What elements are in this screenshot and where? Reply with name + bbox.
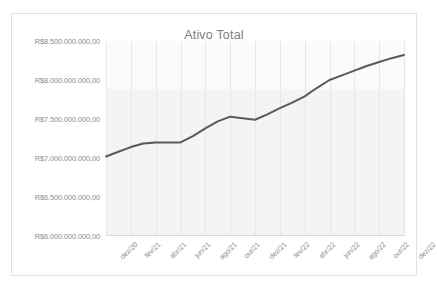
y-axis-tick-labels: R$6.000.000.000,00R$6.500.000.000,00R$7.… [12, 41, 100, 236]
x-axis-tick-label: fev/21 [142, 240, 162, 260]
x-axis-tick-label: dez/20 [118, 240, 139, 261]
gridline [404, 41, 405, 236]
y-axis-tick-label: R$7.500.000.000,00 [35, 115, 100, 124]
y-axis-tick-label: R$8.000.000.000,00 [35, 76, 100, 85]
x-axis-tick-label: jun/21 [192, 240, 212, 260]
x-axis-tick-label: out/21 [242, 240, 262, 260]
x-axis-tick-label: abr/21 [167, 240, 187, 260]
x-axis-tick-label: fev/22 [291, 240, 311, 260]
x-axis-tick-label: abr/22 [316, 240, 336, 260]
y-axis-tick-label: R$6.000.000.000,00 [35, 232, 100, 241]
chart-container: Ativo Total R$6.000.000.000,00R$6.500.00… [11, 13, 417, 276]
x-axis-tick-label: dez/22 [416, 240, 437, 261]
y-axis-tick-label: R$7.000.000.000,00 [35, 154, 100, 163]
plot-area [106, 41, 404, 236]
series-ativo-total [106, 41, 404, 236]
x-axis-tick-label: jun/22 [341, 240, 361, 260]
x-axis-tick-label: dez/21 [267, 240, 288, 261]
x-axis-tick-labels: dez/20fev/21abr/21jun/21ago/21out/21dez/… [106, 236, 404, 280]
x-axis-tick-label: out/22 [391, 240, 411, 260]
y-axis-tick-label: R$6.500.000.000,00 [35, 193, 100, 202]
y-axis-tick-label: R$8.500.000.000,00 [35, 37, 100, 46]
x-axis-tick-label: ago/22 [367, 240, 388, 261]
x-axis-tick-label: ago/21 [218, 240, 239, 261]
